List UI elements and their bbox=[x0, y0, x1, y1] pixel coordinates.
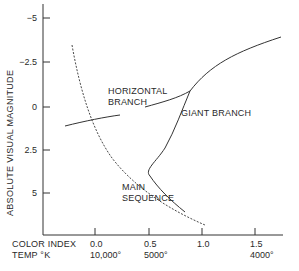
x-tick-label: 0.0 bbox=[90, 239, 103, 249]
giant-branch-label: GIANT BRANCH bbox=[181, 108, 251, 118]
y-axis-title: ABSOLUTE VISUAL MAGNITUDE bbox=[5, 70, 15, 216]
x-ticks bbox=[95, 228, 255, 235]
y-tick-label: −5 bbox=[27, 13, 37, 23]
y-tick-label: 0 bbox=[32, 102, 37, 112]
x-tick-label: 0.5 bbox=[144, 239, 157, 249]
temp-tick-label: 10,000° bbox=[90, 250, 122, 260]
y-tick-label: 2.5 bbox=[24, 145, 37, 155]
temp-tick-label: 4000° bbox=[250, 250, 274, 260]
x-tick-label: 1.5 bbox=[250, 239, 263, 249]
horizontal-branch-label: HORIZONTAL bbox=[108, 86, 167, 96]
temp-tick-label: 5000° bbox=[144, 250, 168, 260]
color-index-label: COLOR INDEX bbox=[12, 239, 76, 249]
hr-diagram: −5 −2.5 0 2.5 5 ABSOLUTE VISUAL MAGNITUD… bbox=[0, 0, 299, 271]
horizontal-branch-label-2: BRANCH bbox=[108, 97, 147, 107]
main-sequence-label: MAIN bbox=[122, 182, 145, 192]
main-sequence-label-2: SEQUENCE bbox=[122, 193, 174, 203]
temp-label: TEMP °K bbox=[12, 250, 50, 260]
y-ticks bbox=[43, 18, 50, 193]
x-tick-label: 1.0 bbox=[197, 239, 210, 249]
y-tick-label: −2.5 bbox=[19, 57, 37, 67]
giant-branch-curve bbox=[190, 37, 281, 91]
y-tick-label: 5 bbox=[32, 188, 37, 198]
